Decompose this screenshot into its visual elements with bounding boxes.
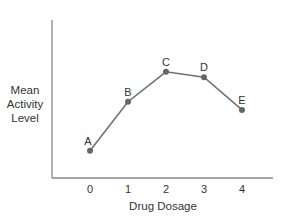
data-point-label: A (84, 135, 92, 147)
x-tick-labels: 01234 (87, 183, 245, 195)
x-tick-label: 1 (125, 183, 131, 195)
data-point-marker (87, 148, 93, 154)
data-point-label: C (162, 56, 170, 68)
data-point-marker (125, 99, 131, 105)
data-point-marker (239, 107, 245, 113)
data-points: ABCDE (84, 56, 245, 154)
x-tick-label: 4 (239, 183, 245, 195)
x-tick-label: 2 (163, 183, 169, 195)
series-line (90, 72, 242, 151)
data-point-label: B (124, 86, 131, 98)
x-tick-label: 3 (201, 183, 207, 195)
data-point-label: E (238, 94, 245, 106)
data-point-marker (163, 69, 169, 75)
data-point-marker (201, 74, 207, 80)
data-point-label: D (200, 61, 208, 73)
x-tick-label: 0 (87, 183, 93, 195)
x-axis-label: Drug Dosage (129, 200, 197, 212)
line-chart: 01234 ABCDE Drug Dosage (0, 0, 301, 219)
